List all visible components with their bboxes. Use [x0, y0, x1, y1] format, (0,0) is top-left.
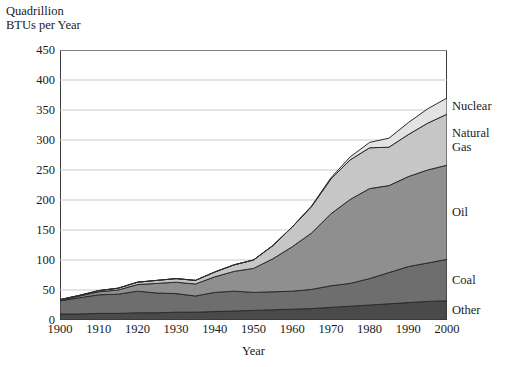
y-tick-label: 450 — [3, 44, 55, 56]
series-label-other: Other — [452, 303, 480, 317]
series-legend: NuclearNatural GasOilCoalOther — [452, 50, 515, 330]
y-tick-label: 100 — [3, 254, 55, 266]
plot-area — [60, 50, 447, 320]
y-tick-label: 250 — [3, 164, 55, 176]
y-tick-label: 200 — [3, 194, 55, 206]
energy-consumption-chart: Quadrillion BTUs per Year 05010015020025… — [0, 0, 515, 367]
series-label-nuclear: Nuclear — [452, 99, 492, 113]
y-axis-tick-labels: 050100150200250300350400450 — [0, 50, 55, 320]
x-axis-title: Year — [60, 344, 447, 359]
series-label-coal: Coal — [452, 273, 476, 287]
y-tick-label: 350 — [3, 104, 55, 116]
y-tick-label: 400 — [3, 74, 55, 86]
y-tick-label: 150 — [3, 224, 55, 236]
series-label-oil: Oil — [452, 205, 468, 219]
y-tick-label: 300 — [3, 134, 55, 146]
stacked-area-series — [60, 50, 447, 320]
y-tick-label: 50 — [3, 284, 55, 296]
series-label-natural-gas: Natural Gas — [452, 126, 489, 154]
y-axis-title: Quadrillion BTUs per Year — [6, 4, 81, 32]
x-axis-tick-labels: 1900191019201930194019501960197019801990… — [60, 322, 447, 340]
